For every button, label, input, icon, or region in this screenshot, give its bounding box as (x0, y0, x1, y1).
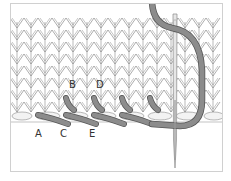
label-c: C (60, 128, 67, 139)
label-b: B (69, 79, 76, 90)
knitting-diagram: A B C D E (0, 0, 231, 181)
figure-frame (11, 4, 223, 172)
label-e: E (89, 128, 95, 139)
label-d: D (96, 79, 104, 90)
label-a: A (35, 128, 42, 139)
